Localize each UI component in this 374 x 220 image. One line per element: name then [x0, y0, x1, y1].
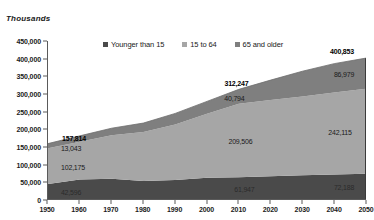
x-axis-tick-label: 2040 [327, 206, 342, 213]
x-axis-tick-label: 1950 [39, 206, 54, 213]
x-axis-tick-label: 2030 [295, 206, 310, 213]
data-label-middle-2010: 209,506 [228, 138, 252, 145]
data-label-young-2050: 72,188 [334, 184, 354, 191]
x-axis-tick-mark [78, 200, 79, 204]
legend-item-label: 65 and older [243, 40, 284, 49]
square-swatch-icon [235, 42, 240, 47]
data-label-total-2010: 312,247 [224, 79, 248, 86]
data-label-middle-2050: 242,115 [328, 128, 351, 135]
square-swatch-icon [103, 42, 108, 47]
x-axis-tick-label: 1970 [103, 206, 118, 213]
x-axis-tick-label: 1980 [135, 206, 150, 213]
x-axis-tick-label: 2050 [358, 206, 373, 213]
data-label-total-2050: 400,853 [330, 48, 354, 55]
x-axis-tick-mark [206, 200, 207, 204]
x-axis-tick-mark [334, 200, 335, 204]
legend-item[interactable]: 15 to 64 [182, 40, 216, 49]
square-swatch-icon [182, 42, 187, 47]
y-axis-tick-label: 350,000 [16, 73, 41, 80]
x-axis-tick-mark [238, 200, 239, 204]
data-label-total-1950: 157,814 [62, 135, 86, 142]
plot-area [47, 41, 366, 200]
y-axis-tick-label: 200,000 [16, 126, 41, 133]
chart-legend: Younger than 1515 to 6465 and older [103, 40, 283, 49]
data-label-middle-1950: 102,175 [61, 163, 85, 170]
y-axis-tick-label: 400,000 [16, 55, 41, 62]
x-axis-tick-mark [174, 200, 175, 204]
x-axis-tick-mark [366, 200, 367, 204]
y-axis-tick-label: 150,000 [16, 144, 41, 151]
legend-item-label: Younger than 15 [111, 40, 164, 49]
x-axis-tick-label: 2020 [263, 206, 278, 213]
x-axis-tick-label: 2010 [231, 206, 246, 213]
x-axis-tick-mark [47, 200, 48, 204]
x-axis-tick-label: 1960 [71, 206, 86, 213]
data-label-older-2010: 40,794 [224, 94, 244, 101]
units-label: Thousands [6, 14, 50, 23]
data-label-young-2010: 61,947 [234, 186, 254, 193]
data-label-older-2050: 86,979 [334, 70, 354, 77]
y-axis-tick-label: 250,000 [16, 108, 41, 115]
stacked-area-plot [48, 41, 366, 199]
data-label-older-1950: 13,043 [61, 144, 81, 151]
data-label-young-1950: 42,596 [61, 189, 81, 196]
x-axis-tick-mark [142, 200, 143, 204]
x-axis: 1950196019701980199020002010202020302040… [47, 200, 366, 218]
x-axis-tick-mark [110, 200, 111, 204]
y-axis-tick-label: 450,000 [16, 38, 41, 45]
legend-item[interactable]: 65 and older [235, 40, 284, 49]
x-axis-tick-label: 1990 [167, 206, 182, 213]
x-axis-tick-mark [302, 200, 303, 204]
x-axis-tick-mark [270, 200, 271, 204]
y-axis-tick-label: 100,000 [16, 161, 41, 168]
y-axis-tick-label: 50,000 [20, 179, 41, 186]
y-axis-tick-label: 300,000 [16, 91, 41, 98]
legend-item-label: 15 to 64 [190, 40, 216, 49]
x-axis-tick-label: 2000 [199, 206, 214, 213]
y-axis-tick-label: 0 [37, 197, 41, 204]
legend-item[interactable]: Younger than 15 [103, 40, 164, 49]
y-axis: 050,000100,000150,000200,000250,000300,0… [0, 41, 47, 200]
